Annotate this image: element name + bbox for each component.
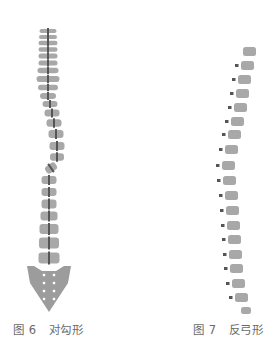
vertebra <box>222 235 241 244</box>
spinal-cord-segment <box>48 199 50 210</box>
vertebra <box>224 264 243 273</box>
vertebra <box>42 175 57 185</box>
spinous-process <box>222 133 226 136</box>
spinal-cord-segment <box>48 187 50 197</box>
reverse-arch-spine-diagram <box>140 0 280 320</box>
vertebra <box>229 293 248 302</box>
spinous-process <box>230 92 234 95</box>
vertebra <box>228 103 247 112</box>
spinous-process <box>221 224 225 227</box>
vertebra <box>220 206 239 215</box>
spinal-cord-segment <box>47 46 49 53</box>
spinous-process <box>232 78 236 81</box>
sacral-foramen <box>53 290 55 292</box>
vertebra <box>38 67 59 75</box>
vertebra <box>219 191 238 200</box>
spinous-process <box>228 106 232 109</box>
vertebra <box>39 252 60 265</box>
spinal-cord-segment <box>56 152 58 162</box>
vertebra <box>42 187 57 197</box>
vertebra <box>241 307 251 314</box>
spinous-process <box>217 179 221 182</box>
spinous-process <box>224 267 228 270</box>
spinal-cord-segment <box>47 28 49 34</box>
vertebra <box>40 223 59 235</box>
vertebra <box>39 46 58 53</box>
vertebra <box>43 100 58 108</box>
vertebra <box>243 47 256 56</box>
spinal-cord-segment <box>51 109 53 118</box>
spinous-process <box>225 120 229 123</box>
spinal-cord-segment <box>56 141 58 151</box>
vertebra <box>226 279 245 288</box>
spinal-cord-segment <box>48 223 50 235</box>
vertebrae-group <box>37 28 65 265</box>
spinal-cord-segment <box>47 60 49 67</box>
vertebra <box>50 141 65 151</box>
spinal-cord-segment <box>47 75 49 83</box>
vertebra <box>38 84 58 92</box>
figure-title: 对勾形 <box>49 323 84 337</box>
vertebrae-group <box>216 47 256 314</box>
spinal-cord-segment <box>47 40 49 47</box>
spinal-cord-segment <box>47 84 49 92</box>
vertebra <box>39 34 57 40</box>
spinous-process <box>223 253 227 256</box>
figure-number: 图 6 <box>13 323 36 337</box>
vertebra <box>39 53 58 60</box>
vertebra <box>50 152 64 162</box>
vertebra <box>217 176 236 185</box>
vertebra <box>49 129 64 139</box>
spinal-cord-segment <box>47 67 49 75</box>
spinous-process <box>229 296 233 299</box>
spinal-cord-segment <box>53 118 55 128</box>
vertebra <box>232 75 251 84</box>
sacral-foramen <box>53 298 55 300</box>
vertebra <box>42 199 57 210</box>
vertebra <box>37 75 60 83</box>
vertebra <box>216 161 235 170</box>
vertebra <box>39 237 59 250</box>
kyphosis-hook-spine-diagram <box>0 0 140 320</box>
spinous-process <box>235 64 239 67</box>
sacral-foramen <box>53 282 55 284</box>
vertebra <box>43 160 59 175</box>
spinous-process <box>219 148 223 151</box>
spinous-process <box>220 209 224 212</box>
figure-6-caption: 图 6 对勾形 <box>13 321 83 337</box>
vertebra <box>219 145 238 154</box>
vertebra <box>45 109 60 118</box>
vertebra <box>222 130 241 139</box>
vertebra <box>223 250 242 259</box>
spinal-cord-segment <box>47 92 49 100</box>
sacral-foramen <box>43 290 45 292</box>
spinal-cord-segment <box>48 237 50 250</box>
spinous-process <box>226 282 230 285</box>
vertebra <box>41 211 58 222</box>
vertebra <box>40 28 57 34</box>
vertebra <box>235 61 254 70</box>
sacral-foramen <box>43 274 45 276</box>
vertebra <box>39 60 58 67</box>
figure-number: 图 7 <box>193 323 216 337</box>
spinal-cord-segment <box>55 129 57 139</box>
sacral-foramen <box>43 282 45 284</box>
vertebra <box>225 117 244 126</box>
vertebra <box>221 221 240 230</box>
vertebra <box>39 40 58 47</box>
vertebra <box>230 89 249 98</box>
spinal-cord-segment <box>48 175 50 185</box>
figure-7-caption: 图 7 反弓形 <box>193 321 263 337</box>
sacral-foramen <box>53 274 55 276</box>
spinal-cord-segment <box>48 252 50 265</box>
vertebra <box>40 92 56 100</box>
sacral-foramen <box>43 298 45 300</box>
figure-title: 反弓形 <box>229 323 264 337</box>
spinous-process <box>222 238 226 241</box>
spinal-cord-segment <box>49 100 51 108</box>
sacrum-shape <box>27 266 71 312</box>
vertebra <box>47 118 62 128</box>
spinal-cord-segment <box>47 34 49 40</box>
spinous-process <box>219 194 223 197</box>
spinal-cord-segment <box>47 53 49 60</box>
